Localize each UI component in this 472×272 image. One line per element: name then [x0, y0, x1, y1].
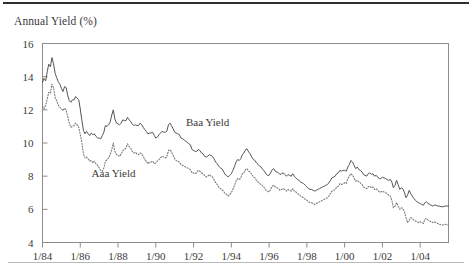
bottom-divider-rule — [8, 262, 464, 263]
x-axis-tick-label: 1/90 — [146, 250, 166, 262]
y-axis-tick-label: 10 — [23, 137, 35, 149]
x-axis-tick-label: 1/98 — [297, 250, 317, 262]
x-axis-tick-label: 1/88 — [108, 250, 128, 262]
x-axis-tick-label: 1/04 — [410, 250, 430, 262]
x-axis-tick-label: 1/84 — [33, 250, 53, 262]
x-axis-tick-group: 1/841/861/881/901/921/941/961/981/001/02… — [33, 243, 431, 262]
series-line-baa-yield — [43, 58, 449, 207]
x-axis-tick-label: 1/96 — [259, 250, 279, 262]
series-label-baa-yield: Baa Yield — [186, 116, 230, 128]
y-axis-tick-label: 14 — [23, 71, 35, 83]
y-axis-tick-group: 46810121416 — [23, 38, 48, 249]
plot-frame — [43, 44, 449, 243]
yield-chart-plot: 46810121416 1/841/861/881/901/921/941/96… — [0, 0, 472, 272]
series-group — [43, 58, 449, 225]
y-axis-tick-label: 12 — [23, 104, 34, 116]
y-axis-tick-label: 8 — [28, 170, 34, 182]
y-axis-tick-label: 4 — [28, 237, 34, 249]
figure-container: Annual Yield (%) 46810121416 1/841/861/8… — [0, 0, 472, 272]
x-axis-tick-label: 1/86 — [70, 250, 90, 262]
x-axis-tick-label: 1/94 — [222, 250, 242, 262]
series-label-aaa-yield: Aaa Yield — [92, 167, 136, 179]
y-axis-tick-label: 16 — [23, 38, 35, 50]
series-line-aaa-yield — [43, 84, 449, 225]
x-axis-tick-label: 1/00 — [335, 250, 355, 262]
x-axis-tick-label: 1/92 — [184, 250, 204, 262]
y-axis-tick-label: 6 — [28, 203, 34, 215]
x-axis-tick-label: 1/02 — [373, 250, 393, 262]
